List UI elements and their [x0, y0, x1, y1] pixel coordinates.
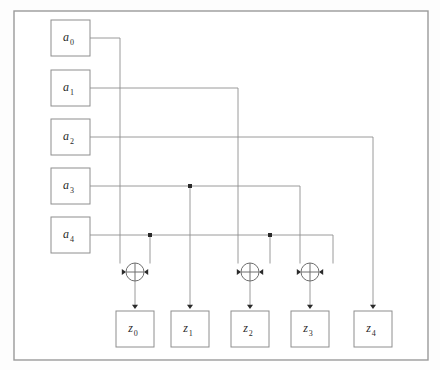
- output-node-subscript: 4: [372, 329, 376, 338]
- input-node-layer: a0a1a2a3a4: [51, 20, 90, 253]
- xor-gate-xor3: [301, 263, 319, 281]
- junction-dot: [268, 233, 272, 237]
- input-node-a3[interactable]: a3: [51, 168, 90, 204]
- output-node-subscript: 1: [189, 329, 193, 338]
- output-node-z3[interactable]: z3: [291, 311, 329, 347]
- diagram-canvas: a0a1a2a3a4 z0z1z2z3z4: [0, 0, 440, 370]
- input-node-subscript: 3: [70, 186, 74, 195]
- circuit-diagram: a0a1a2a3a4 z0z1z2z3z4: [0, 0, 440, 370]
- input-node-subscript: 2: [70, 137, 74, 146]
- output-node-subscript: 3: [309, 329, 313, 338]
- input-node-a0[interactable]: a0: [51, 20, 90, 56]
- input-node-subscript: 1: [70, 88, 74, 97]
- output-node-subscript: 2: [249, 329, 253, 338]
- output-node-z0[interactable]: z0: [116, 311, 154, 347]
- input-node-subscript: 4: [70, 235, 74, 244]
- output-node-z1[interactable]: z1: [171, 311, 209, 347]
- junction-dot: [148, 233, 152, 237]
- input-node-a2[interactable]: a2: [51, 119, 90, 155]
- input-node-a4[interactable]: a4: [51, 217, 90, 253]
- input-node-subscript: 0: [70, 38, 74, 47]
- xor-gate-xor2: [241, 263, 259, 281]
- output-node-z4[interactable]: z4: [354, 311, 392, 347]
- xor-gate-xor0: [126, 263, 144, 281]
- output-node-z2[interactable]: z2: [231, 311, 269, 347]
- output-node-subscript: 0: [134, 329, 138, 338]
- input-node-a1[interactable]: a1: [51, 70, 90, 106]
- junction-dot: [188, 184, 192, 188]
